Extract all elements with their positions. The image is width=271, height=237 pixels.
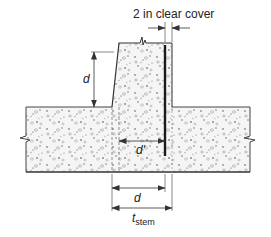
- d-vertical-label: d: [83, 72, 90, 86]
- footing: [20, 107, 255, 172]
- d-bottom-label: d: [134, 191, 141, 205]
- d-vertical-dimension: [91, 52, 114, 107]
- bottom-dimensions: [112, 174, 172, 211]
- t-stem-subscript: stem: [135, 217, 155, 227]
- d-prime-label: d': [136, 143, 145, 157]
- clear-cover-dimension: [148, 22, 190, 42]
- clear-cover-label: 2 in clear cover: [133, 7, 214, 21]
- t-stem-label: tstem: [132, 211, 155, 225]
